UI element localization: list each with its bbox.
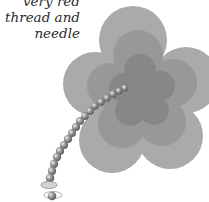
flower-illustration [0,0,209,202]
needle-icon [41,182,62,201]
